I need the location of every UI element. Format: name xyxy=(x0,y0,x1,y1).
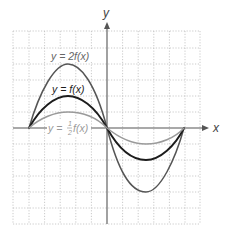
x-axis-label: x xyxy=(212,121,220,135)
chart: y x y = 2f(x) y = f(x) y = 1 2 f(x) xyxy=(0,0,226,236)
y-axis-arrow-icon xyxy=(104,22,110,29)
label-f: y = f(x) xyxy=(51,83,84,95)
x-axis-arrow-icon xyxy=(202,125,209,131)
axes xyxy=(13,28,204,224)
y-axis-label: y xyxy=(102,6,110,20)
label-half-num: 1 xyxy=(68,120,72,127)
label-half-suffix: f(x) xyxy=(73,122,88,134)
label-half-den: 2 xyxy=(67,129,72,136)
label-2f: y = 2f(x) xyxy=(50,50,89,62)
label-half-prefix: y = xyxy=(47,122,62,134)
